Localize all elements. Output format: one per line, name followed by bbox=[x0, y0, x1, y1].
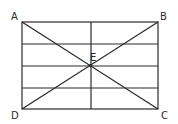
point-e-marker bbox=[89, 64, 92, 67]
label-c: C bbox=[161, 110, 168, 121]
geometry-diagram: A B C D E bbox=[0, 0, 178, 124]
label-d: D bbox=[11, 110, 19, 121]
label-a: A bbox=[11, 11, 18, 22]
label-e: E bbox=[90, 52, 96, 63]
label-b: B bbox=[160, 11, 167, 22]
